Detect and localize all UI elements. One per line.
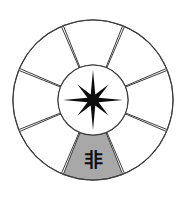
wheel-canvas: 非: [0, 0, 188, 199]
compass-wheel-diagram: 非: [0, 0, 188, 199]
sector-glyph-group: 非: [84, 149, 103, 171]
sector-s-label: 非: [84, 149, 103, 171]
